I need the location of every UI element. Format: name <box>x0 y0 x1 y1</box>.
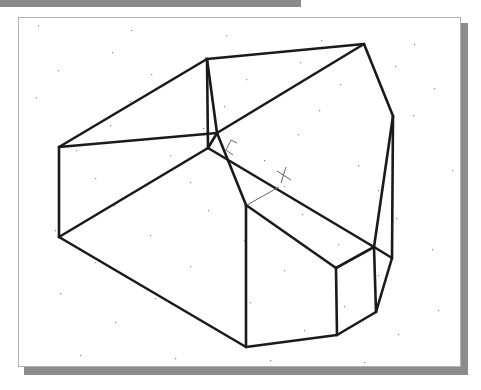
edge-JK[interactable] <box>376 258 392 312</box>
grid-dot <box>36 97 37 98</box>
grid-dot <box>38 25 39 26</box>
grid-dots <box>36 25 453 363</box>
grid-dot <box>190 182 191 183</box>
drawing-canvas[interactable] <box>0 0 481 390</box>
grid-dot <box>115 322 116 323</box>
grid-dot <box>398 334 399 335</box>
edge-CF[interactable] <box>208 133 217 148</box>
grid-dot <box>224 106 225 107</box>
edge-IK[interactable] <box>374 247 376 312</box>
grid-dot <box>58 70 59 71</box>
grid-dot <box>338 244 339 245</box>
edge-GH[interactable] <box>246 205 336 268</box>
grid-dot <box>208 210 209 211</box>
grid-dot <box>155 298 156 299</box>
edge-BF[interactable] <box>207 59 208 148</box>
grid-dot <box>250 302 251 303</box>
wireframe-solid[interactable] <box>59 44 393 347</box>
grid-dot <box>80 355 81 356</box>
grid-dot <box>110 125 111 126</box>
grid-dot <box>298 134 299 135</box>
grid-dot <box>284 270 285 271</box>
grid-dot <box>203 128 204 129</box>
grid-dot <box>270 360 271 361</box>
edge-EJ[interactable] <box>392 116 393 258</box>
grid-dot <box>378 275 379 276</box>
edge-IJ[interactable] <box>374 247 392 258</box>
edge-FI[interactable] <box>208 148 374 247</box>
grid-dot <box>76 150 77 151</box>
grid-dot <box>131 30 132 31</box>
grid-dot <box>151 74 152 75</box>
grid-dot <box>414 44 415 45</box>
edge-FM[interactable] <box>59 148 208 237</box>
grid-dot <box>321 40 322 41</box>
grid-dot <box>284 186 285 187</box>
grid-dot <box>304 330 305 331</box>
grid-dot <box>95 262 96 263</box>
grid-dot <box>205 57 206 58</box>
grid-dot <box>395 66 396 67</box>
grid-dot <box>55 230 56 231</box>
grid-dot <box>60 293 61 294</box>
grid-dot <box>452 170 453 171</box>
edge-MN[interactable] <box>59 237 246 347</box>
grid-dot <box>95 178 96 179</box>
grid-dot <box>300 62 301 63</box>
grid-dot <box>319 110 320 111</box>
grid-dot <box>112 52 113 53</box>
grid-dot <box>378 190 379 191</box>
grid-dot <box>432 249 433 250</box>
grid-dot <box>246 79 247 80</box>
edge-HL[interactable] <box>336 268 337 335</box>
edge-AC[interactable] <box>59 133 217 147</box>
edge-HI[interactable] <box>336 247 374 268</box>
edge-KL[interactable] <box>337 312 376 335</box>
ucs-icon <box>226 140 291 205</box>
grid-dot <box>175 358 176 359</box>
grid-dot <box>340 84 341 85</box>
grid-dot <box>150 235 151 236</box>
edge-CD[interactable] <box>217 44 364 133</box>
grid-dot <box>190 266 191 267</box>
grid-dot <box>302 214 303 215</box>
edge-AB[interactable] <box>59 59 207 147</box>
edge-DE[interactable] <box>364 44 393 116</box>
grid-dot <box>364 362 365 363</box>
grid-dot <box>396 218 397 219</box>
grid-dot <box>226 35 227 36</box>
edge-LN[interactable] <box>246 335 337 347</box>
grid-dot <box>358 165 359 166</box>
grid-dot <box>264 160 265 161</box>
grid-dot <box>344 306 345 307</box>
edge-IE[interactable] <box>374 116 393 247</box>
grid-dot <box>170 155 171 156</box>
grid-dot <box>434 88 435 89</box>
grid-dot <box>413 115 414 116</box>
grid-dot <box>130 101 131 102</box>
grid-dot <box>438 310 439 311</box>
